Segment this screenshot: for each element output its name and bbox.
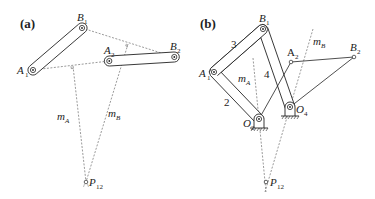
svg-text:O: O (243, 117, 251, 129)
svg-text:P: P (88, 176, 96, 188)
svg-text:B: B (259, 12, 266, 24)
label-link-4: 4 (264, 68, 270, 80)
label-p12-a: P12 (88, 176, 104, 191)
label-a1: A1 (16, 64, 29, 79)
svg-text:B: B (77, 11, 84, 23)
label-ma: mA (57, 110, 70, 125)
link-a2-b2 (104, 52, 179, 66)
svg-text:2: 2 (251, 124, 255, 132)
panel-a: (a) A1 B1 A2 B2 (16, 11, 181, 191)
svg-text:A: A (287, 46, 295, 58)
label-a1-b: A1 (198, 67, 211, 82)
svg-text:4: 4 (304, 110, 308, 118)
panel-a-label: (a) (20, 16, 35, 31)
svg-text:1: 1 (207, 74, 211, 82)
svg-text:2: 2 (111, 51, 115, 59)
label-mb: mB (108, 107, 121, 122)
svg-text:m: m (238, 72, 246, 84)
svg-text:O: O (296, 103, 304, 115)
svg-text:B: B (321, 42, 326, 50)
linkage-diagram: (a) A1 B1 A2 B2 (0, 0, 375, 199)
label-b2-b: B2 (350, 41, 361, 56)
point-a2-b (289, 60, 293, 64)
svg-text:1: 1 (84, 18, 88, 26)
svg-text:A: A (245, 79, 251, 87)
svg-text:A: A (16, 64, 24, 76)
label-link-3: 3 (231, 38, 237, 50)
svg-text:2: 2 (177, 47, 181, 55)
label-mb-b: mB (313, 35, 326, 50)
svg-text:B: B (350, 41, 357, 53)
svg-text:1: 1 (25, 71, 29, 79)
point-b2-b (352, 55, 356, 59)
svg-text:B: B (116, 114, 121, 122)
svg-text:1: 1 (266, 19, 270, 27)
svg-text:A: A (198, 67, 206, 79)
label-ma-b: mA (238, 72, 251, 87)
svg-text:2: 2 (295, 53, 299, 61)
link-o4-b2 (290, 57, 354, 107)
pole-p12-a (84, 180, 88, 184)
pole-p12-b (264, 180, 268, 184)
svg-text:A: A (103, 44, 111, 56)
label-a2-b: A2 (287, 46, 299, 61)
panel-b: (b) (198, 12, 361, 192)
svg-text:m: m (108, 107, 116, 119)
panel-b-label: (b) (200, 16, 216, 31)
svg-text:m: m (57, 110, 65, 122)
label-p12-b: P12 (269, 176, 285, 191)
svg-text:m: m (313, 35, 321, 47)
svg-text:2: 2 (357, 48, 361, 56)
svg-text:A: A (64, 117, 70, 125)
svg-text:B: B (170, 40, 177, 52)
svg-text:12: 12 (277, 183, 285, 191)
label-link-2: 2 (224, 96, 230, 108)
svg-text:P: P (269, 176, 277, 188)
link-a2-b2-b (291, 57, 354, 62)
bisector-ma (73, 66, 86, 182)
svg-text:12: 12 (96, 183, 104, 191)
